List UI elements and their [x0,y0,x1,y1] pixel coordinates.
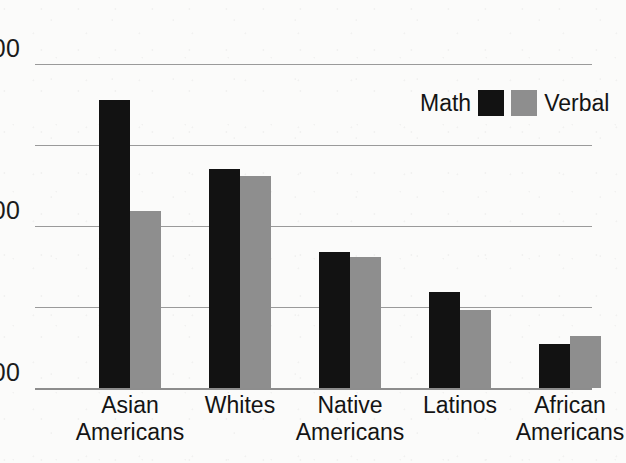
bar-math-0 [99,100,130,388]
bar-math-3 [429,292,460,388]
legend: Math Verbal [420,90,609,116]
legend-swatch-verbal-icon [511,90,537,116]
gridline-400 [35,388,592,390]
bar-chart: 400500600 Asian AmericansWhitesNative Am… [0,0,626,463]
bar-verbal-2 [350,257,381,388]
bar-verbal-0 [130,211,161,388]
bar-verbal-4 [570,336,601,388]
legend-label-verbal: Verbal [544,92,609,115]
y-tick-label-500: 500 [0,198,30,223]
category-label-4: African Americans [500,392,626,446]
y-tick-label-600: 600 [0,36,30,61]
bar-verbal-1 [240,176,271,388]
bar-math-4 [539,344,570,388]
legend-label-math: Math [420,92,471,115]
bar-verbal-3 [460,310,491,388]
y-tick-label-400: 400 [0,360,30,385]
bar-math-1 [209,169,240,388]
bar-math-2 [319,252,350,388]
legend-swatch-math-icon [478,90,504,116]
